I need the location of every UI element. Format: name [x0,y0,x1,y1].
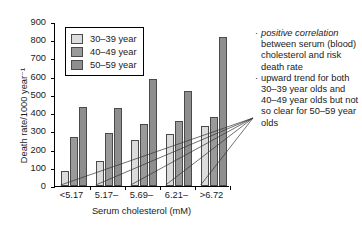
bar [131,140,140,186]
y-axis-tick-label: 400 [18,109,46,118]
bar [149,79,158,186]
x-axis-tick-label: >6.72 [200,190,224,200]
bar [184,91,193,186]
y-axis-tick-mark [51,132,55,133]
y-axis-tick-mark [51,96,55,97]
y-axis-tick-mark [51,78,55,79]
y-axis-tick-label: 100 [18,164,46,173]
bar [61,171,70,186]
bar [210,117,219,186]
bar [79,107,88,186]
annotation-item: ·upward trend for both 30–39 year olds a… [255,73,359,129]
chart-figure: Death rate/1000 year⁻¹ 01002003004005006… [0,0,362,246]
y-axis-tick-label: 900 [18,18,46,27]
bar [70,137,79,186]
y-axis-tick-label: 300 [18,127,46,136]
y-axis-tick-labels: 0100200300400500600700800900 [18,0,46,246]
x-axis-tick-label: <5.17 [60,190,84,200]
y-axis-tick-label: 500 [18,91,46,100]
legend-item: 50–59 year [71,58,137,71]
y-axis-tick-label: 200 [18,146,46,155]
bar [105,133,114,186]
legend-swatch-icon [71,47,83,57]
y-axis-tick-mark [51,59,55,60]
bar [175,121,184,186]
annotation-item: ·positive correlation between serum (blo… [255,28,359,73]
y-axis-tick-label: 600 [18,73,46,82]
chart-legend: 30–39 year40–49 year50–59 year [65,27,144,76]
y-axis-tick-label: 800 [18,36,46,45]
annotation-emphasis: positive correlation [261,28,339,38]
y-axis-tick-mark [51,41,55,42]
legend-item-label: 50–59 year [90,60,137,70]
bar [140,124,149,187]
annotation-text: positive correlation between serum (bloo… [261,28,359,73]
y-axis-tick-mark [51,151,55,152]
x-axis-tick-label: 5.17– [95,190,118,200]
annotation-text: upward trend for both 30–39 year olds an… [261,73,359,129]
legend-item-label: 40–49 year [90,47,137,57]
y-axis-tick-mark [51,23,55,24]
x-axis-title-text: Serum cholesterol (mM) [92,206,191,216]
legend-item: 40–49 year [71,45,137,58]
legend-swatch-icon [71,60,83,70]
x-axis-tick-labels: <5.175.17–5.69–6.21–>6.72 [54,190,229,204]
y-axis-tick-mark [51,114,55,115]
x-axis-tick-label: 6.21– [165,190,188,200]
legend-swatch-icon [71,34,83,44]
bar [114,108,123,186]
y-axis-tick-mark [51,169,55,170]
annotation-notes: ·positive correlation between serum (blo… [255,28,359,129]
legend-item: 30–39 year [71,32,137,45]
y-axis-tick-mark [51,187,55,188]
bar [201,126,210,186]
bar [219,37,228,186]
bar [96,161,105,186]
x-axis-title: Serum cholesterol (mM) [54,206,229,216]
legend-item-label: 30–39 year [90,34,137,44]
x-axis-tick-mark [230,186,231,190]
y-axis-tick-label: 700 [18,54,46,63]
y-axis-tick-label: 0 [18,182,46,191]
x-axis-tick-label: 5.69– [130,190,153,200]
bar [166,134,175,186]
